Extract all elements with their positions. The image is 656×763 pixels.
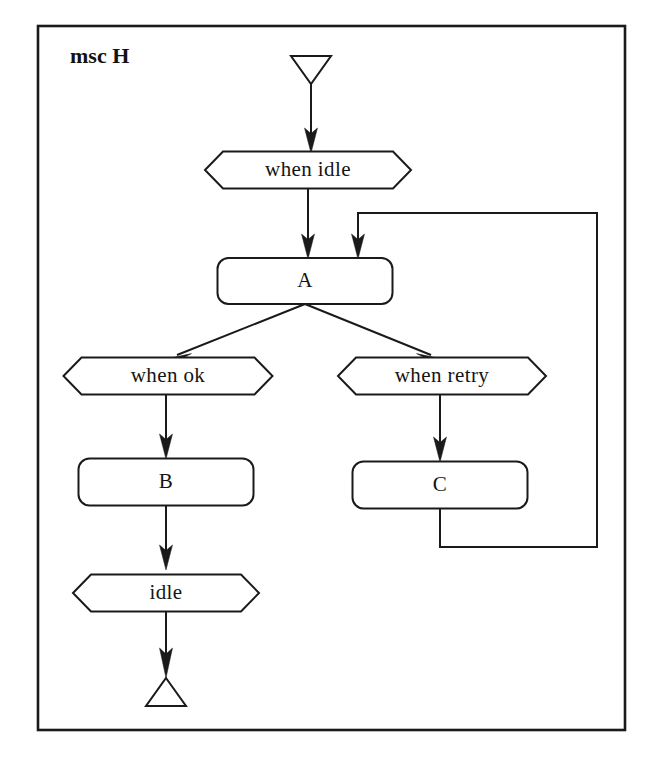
edge-a-to-when-retry: [305, 304, 442, 365]
edge-line: [305, 304, 431, 355]
start-terminal: [291, 56, 331, 84]
edge-start-to-when-idle: [305, 84, 318, 153]
triangle-up-icon: [146, 678, 186, 706]
msc-frame-title: msc H: [70, 43, 129, 68]
condition-when-ok-label: when ok: [131, 363, 206, 387]
reference-box-a-label: A: [297, 268, 313, 292]
condition-when-retry-label: when retry: [395, 363, 489, 387]
reference-box-c: C: [353, 462, 528, 509]
condition-when-idle: when idle: [205, 152, 411, 189]
reference-box-a: A: [218, 258, 393, 304]
condition-idle: idle: [73, 575, 259, 612]
condition-when-retry: when retry: [338, 358, 546, 395]
reference-box-c-label: C: [433, 472, 447, 496]
condition-when-ok: when ok: [64, 358, 273, 395]
edge-when-retry-to-c: [434, 395, 447, 462]
end-terminal: [146, 678, 186, 706]
reference-box-b: B: [79, 459, 254, 506]
edge-a-to-when-ok: [166, 304, 305, 365]
edge-when-idle-to-a: [302, 189, 315, 259]
msc-diagram-canvas: msc H: [0, 0, 656, 763]
edge-idle-to-end: [160, 612, 173, 678]
condition-when-idle-label: when idle: [265, 157, 351, 181]
triangle-down-icon: [291, 56, 331, 84]
condition-idle-label: idle: [149, 580, 182, 604]
msc-diagram-root: msc H: [0, 0, 656, 763]
reference-box-b-label: B: [159, 469, 173, 493]
edge-when-ok-to-b: [160, 395, 173, 459]
edge-b-to-idle: [160, 506, 173, 570]
edge-line: [177, 304, 305, 355]
